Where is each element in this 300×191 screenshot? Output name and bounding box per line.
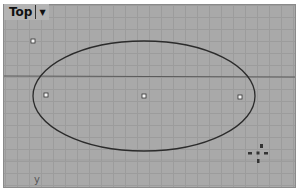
x-axis-line [4,76,295,77]
control-point[interactable] [142,94,146,98]
viewport-scene[interactable] [0,0,300,191]
y-axis-label: y [34,174,40,185]
viewport-title: Top [9,5,32,19]
point-object[interactable] [31,39,35,43]
control-point[interactable] [44,93,48,97]
control-point[interactable] [238,95,242,99]
dropdown-caret-icon[interactable]: ▼ [39,8,45,17]
title-separator [35,5,36,19]
control-points[interactable] [31,39,242,99]
viewport-title-tab[interactable]: Top ▼ [4,4,49,20]
